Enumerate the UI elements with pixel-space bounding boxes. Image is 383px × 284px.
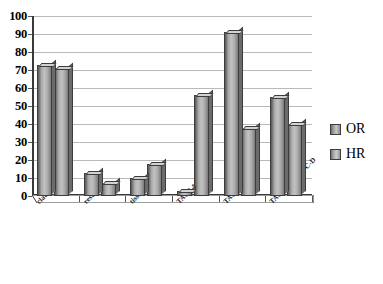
plot-area: [32, 16, 312, 196]
legend-swatch-icon: [330, 124, 341, 135]
bar-side-face: [209, 90, 213, 194]
legend-item-hr: HR: [330, 147, 382, 161]
bar-or: [84, 173, 99, 196]
bar-hr: [194, 95, 209, 196]
bar-front-face: [270, 97, 285, 196]
bar-side-face: [69, 63, 73, 194]
bar-side-face: [52, 59, 56, 194]
bar-top-face: [102, 181, 120, 185]
bar-top-face: [178, 189, 196, 193]
y-axis-tick-label: 70: [15, 64, 27, 77]
legend-swatch-icon: [330, 149, 341, 160]
y-axis-tick-label: 100: [9, 10, 27, 23]
bar-front-face: [37, 65, 52, 196]
y-axis-tick-label: 80: [15, 46, 27, 59]
x-axis-labels: claudicationrest paintissue lossTASC A-B…: [32, 200, 332, 280]
bar-group: [224, 16, 271, 196]
legend-label: OR: [346, 122, 365, 136]
bars-layer: [32, 16, 312, 196]
bar-front-face: [147, 164, 162, 196]
bar-hr: [147, 164, 162, 196]
bar-group: [37, 16, 84, 196]
bar-or: [37, 65, 52, 196]
y-axis-tick-label: 10: [15, 172, 27, 185]
legend-label: HR: [346, 147, 365, 161]
y-axis-tick-label: 0: [21, 190, 27, 203]
bar-top-face: [85, 171, 103, 175]
bar-top-face: [149, 162, 167, 166]
bar-hr: [54, 68, 69, 196]
bar-group: [130, 16, 177, 196]
bar-or: [270, 97, 285, 196]
bar-side-face: [239, 27, 243, 194]
bar-side-face: [285, 92, 289, 194]
bar-or: [130, 178, 145, 196]
bar-or: [224, 32, 239, 196]
bar-front-face: [130, 178, 145, 196]
bar-front-face: [287, 124, 302, 196]
bar-chart: 0102030405060708090100 claudicationrest …: [0, 0, 383, 284]
bar-front-face: [224, 32, 239, 196]
y-axis-tick-label: 60: [15, 82, 27, 95]
bar-front-face: [194, 95, 209, 196]
y-axis-tick-label: 90: [15, 28, 27, 41]
bar-group: [177, 16, 224, 196]
bar-side-face: [256, 122, 260, 194]
y-axis-tick-label: 50: [15, 100, 27, 113]
y-axis-labels: 0102030405060708090100: [0, 12, 30, 196]
bar-top-face: [242, 126, 260, 130]
bar-front-face: [54, 68, 69, 196]
bar-side-face: [302, 119, 306, 194]
bar-front-face: [84, 173, 99, 196]
y-axis-tick-label: 20: [15, 154, 27, 167]
y-axis-tick-label: 30: [15, 136, 27, 149]
bar-hr: [287, 124, 302, 196]
legend-item-or: OR: [330, 122, 382, 136]
bar-or: [177, 191, 192, 196]
bar-group: [84, 16, 131, 196]
chart-legend: ORHR: [330, 122, 382, 172]
bar-top-face: [38, 63, 56, 67]
y-axis-tick-label: 40: [15, 118, 27, 131]
bar-top-face: [225, 30, 243, 34]
